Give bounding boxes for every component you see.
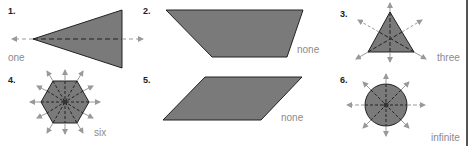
- answer-2: none: [297, 44, 319, 55]
- answer-5: none: [281, 112, 303, 123]
- answer-3: three: [437, 52, 460, 63]
- answer-6: infinite: [431, 132, 460, 143]
- shape-6-circle: [347, 74, 425, 136]
- problem-number-6: 6.: [340, 75, 348, 85]
- answer-4: six: [94, 127, 106, 138]
- shape-1-triangle: [12, 10, 143, 68]
- problem-number-1: 1.: [8, 6, 16, 16]
- problem-number-2: 2.: [143, 6, 151, 16]
- problem-number-4: 4.: [8, 75, 16, 85]
- shape-3-equilateral-triangle: [356, 3, 426, 62]
- right-border: [466, 0, 468, 146]
- answer-1: one: [8, 52, 25, 63]
- shape-2-trapezoid: [166, 10, 303, 57]
- shape-4-hexagon: [30, 70, 100, 134]
- problem-number-3: 3.: [340, 9, 348, 19]
- symmetry-figures: [0, 0, 469, 146]
- problem-number-5: 5.: [143, 75, 151, 85]
